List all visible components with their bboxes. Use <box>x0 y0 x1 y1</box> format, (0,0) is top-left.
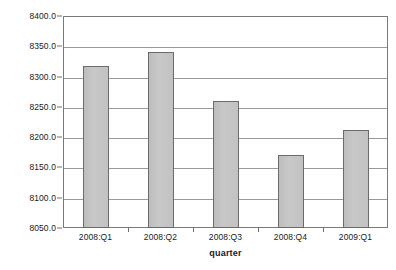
bar[interactable] <box>213 101 239 228</box>
bar-slot <box>193 16 258 228</box>
y-axis-tick-mark <box>57 197 62 198</box>
bar-slot <box>128 16 193 228</box>
y-axis-tick-label: 8400.0 <box>29 11 56 21</box>
y-axis-tick-mark <box>57 137 62 138</box>
y-axis-tick-label: 8050.0 <box>29 223 56 233</box>
bars-layer <box>63 16 388 228</box>
y-axis-tick-mark <box>57 167 62 168</box>
y-axis: 8050.08100.08150.08200.08250.08300.08350… <box>0 0 63 246</box>
bar[interactable] <box>343 130 369 228</box>
y-axis-tick-label: 8350.0 <box>29 41 56 51</box>
x-axis-tick-mark <box>258 228 259 232</box>
bar-slot <box>258 16 323 228</box>
x-axis-tick-label: 2008:Q3 <box>209 232 242 242</box>
x-axis-title: quarter <box>63 248 388 258</box>
bar[interactable] <box>148 52 174 228</box>
y-axis-tick-label: 8200.0 <box>29 132 56 142</box>
bar-slot <box>63 16 128 228</box>
bar[interactable] <box>278 155 304 228</box>
x-axis-tick-label: 2008:Q4 <box>274 232 307 242</box>
y-axis-tick-mark <box>57 46 62 47</box>
x-axis-tick-label: 2008:Q1 <box>79 232 112 242</box>
x-axis-tick-label: 2008:Q2 <box>144 232 177 242</box>
y-axis-tick-mark <box>57 228 62 229</box>
bar-chart: 8050.08100.08150.08200.08250.08300.08350… <box>0 0 396 270</box>
y-axis-tick-label: 8100.0 <box>29 193 56 203</box>
y-axis-tick-label: 8150.0 <box>29 162 56 172</box>
bar-slot <box>323 16 388 228</box>
bar[interactable] <box>83 66 109 228</box>
x-axis-tick-mark <box>193 228 194 232</box>
x-axis-tick-label: 2009:Q1 <box>339 232 372 242</box>
y-axis-tick-label: 8300.0 <box>29 72 56 82</box>
x-axis-tick-mark <box>128 228 129 232</box>
y-axis-tick-mark <box>57 106 62 107</box>
y-axis-tick-label: 8250.0 <box>29 102 56 112</box>
y-axis-tick-mark <box>57 76 62 77</box>
x-axis: 2008:Q12008:Q22008:Q32008:Q42009:Q1 <box>63 232 388 248</box>
y-axis-tick-mark <box>57 16 62 17</box>
x-axis-tick-mark <box>323 228 324 232</box>
